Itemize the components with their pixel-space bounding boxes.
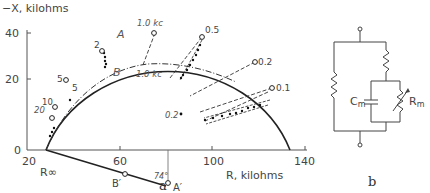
- b-prime-marker: [123, 172, 128, 177]
- circuit-diagram: [331, 27, 408, 147]
- b-prime-label: B′: [112, 178, 122, 189]
- B-freq-1kc: 1.0 kc: [136, 69, 162, 79]
- y-tick-40: 40: [5, 27, 19, 40]
- vector-line: [46, 150, 166, 186]
- curve-A-markers: [50, 31, 275, 121]
- x-axis: [27, 146, 307, 150]
- y-axis: [27, 30, 31, 150]
- A-freq-1kc: 1.0 kc: [137, 18, 163, 28]
- curve-B-label: B: [113, 66, 121, 79]
- data-points: [49, 44, 261, 137]
- x-tick-20: 20: [22, 155, 36, 168]
- A-freq-5: 5: [57, 74, 63, 84]
- a-prime-label: A′: [173, 182, 183, 193]
- y-tick-20: 20: [5, 73, 19, 86]
- variable-resistor-arrow: [405, 88, 410, 93]
- B-freq-5: 5: [72, 83, 78, 93]
- cm-label: Cm: [350, 95, 366, 109]
- impedance-figure: −X, kilohms 40 20 0 20 60 100 140 R, kil…: [0, 0, 430, 193]
- A-freq-2: 2: [94, 40, 100, 50]
- y-tick-0: 0: [14, 144, 21, 157]
- rm-label: Rm: [409, 95, 425, 109]
- A-freq-0.2: 0.2: [258, 57, 272, 67]
- y-axis-label: −X, kilohms: [2, 2, 69, 15]
- data-trend-lines: [180, 40, 270, 124]
- x-tick-100: 100: [203, 155, 224, 168]
- panel-a-caption: a: [159, 178, 167, 193]
- panel-b-caption: b: [368, 174, 376, 189]
- x-axis-label: R, kilohms: [226, 169, 284, 182]
- r-infinity-label: R∞: [40, 166, 57, 179]
- A-freq-20: 20: [34, 105, 45, 115]
- A-freq-0.1: 0.1: [276, 83, 290, 93]
- B-freq-0.2: 0.2: [165, 110, 179, 120]
- A-freq-0.5: 0.5: [205, 25, 219, 35]
- x-tick-60: 60: [113, 155, 127, 168]
- x-tick-140: 140: [294, 155, 315, 168]
- curve-A-label: A: [116, 28, 125, 41]
